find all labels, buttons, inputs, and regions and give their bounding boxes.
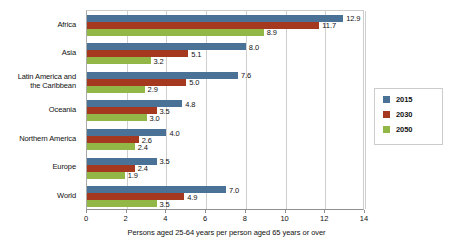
bar-2050	[87, 57, 151, 64]
bar-track: 3.0	[87, 114, 363, 121]
bar-value-label: 2.9	[145, 85, 158, 94]
bar-track: 4.8	[87, 100, 363, 107]
legend-label: 2030	[396, 110, 412, 119]
x-tick-label: 0	[84, 214, 88, 223]
bar-2050	[87, 200, 157, 207]
bar-group: 4.83.53.0	[87, 97, 363, 126]
bar-track: 2.4	[87, 143, 363, 150]
bar-2030	[87, 136, 139, 143]
bar-2050	[87, 143, 135, 150]
x-axis-ticks: 02468101214	[86, 210, 364, 226]
bar-2030	[87, 79, 186, 86]
bar-2015	[87, 186, 226, 193]
legend-swatch-icon	[383, 111, 390, 118]
bar-2030	[87, 22, 319, 29]
category-label: Northern America	[19, 134, 76, 144]
category-axis-labels: AfricaAsiaLatin America and the Caribbea…	[0, 10, 82, 210]
bar-value-label: 8.9	[264, 28, 277, 37]
gridline	[365, 11, 366, 209]
bar-value-label: 1.9	[125, 171, 138, 180]
bar-track: 8.0	[87, 43, 363, 50]
bar-track: 7.0	[87, 186, 363, 193]
bar-group: 4.02.62.4	[87, 125, 363, 154]
x-tick-label: 10	[280, 214, 288, 223]
bar-2050	[87, 172, 125, 179]
bar-track: 8.9	[87, 29, 363, 36]
bar-value-label: 3.0	[147, 113, 160, 122]
bar-2050	[87, 114, 147, 121]
bar-track: 11.7	[87, 22, 363, 29]
x-tick-label: 4	[163, 214, 167, 223]
bar-track: 5.0	[87, 79, 363, 86]
x-tick-mark	[285, 210, 286, 213]
x-tick-label: 12	[320, 214, 328, 223]
bar-value-label: 3.2	[151, 56, 164, 65]
x-tick-label: 8	[243, 214, 247, 223]
category-label: Africa	[57, 20, 76, 30]
bar-value-label: 3.5	[157, 199, 170, 208]
category-label: World	[57, 191, 76, 201]
legend-label: 2015	[396, 95, 412, 104]
bar-2015	[87, 43, 246, 50]
x-tick-mark	[126, 210, 127, 213]
bar-track: 2.6	[87, 136, 363, 143]
x-tick-mark	[324, 210, 325, 213]
bar-2050	[87, 86, 145, 93]
legend-item[interactable]: 2015	[383, 95, 442, 104]
category-label: Asia	[62, 48, 76, 58]
x-tick-label: 14	[360, 214, 368, 223]
bar-groups: 12.911.78.98.05.13.27.65.02.94.83.53.04.…	[87, 11, 363, 209]
bar-2030	[87, 193, 184, 200]
x-tick-label: 2	[124, 214, 128, 223]
bar-group: 12.911.78.9	[87, 11, 363, 40]
bar-track: 2.9	[87, 86, 363, 93]
legend-swatch-icon	[383, 96, 390, 103]
chart-legend: 201520302050	[374, 88, 443, 145]
bar-track: 3.5	[87, 200, 363, 207]
bar-2015	[87, 129, 166, 136]
x-axis-title: Persons aged 25-64 years per person aged…	[0, 228, 453, 237]
bar-2030	[87, 50, 188, 57]
category-label: Latin America and the Caribbean	[18, 72, 76, 91]
bar-track: 1.9	[87, 172, 363, 179]
bar-group: 3.52.41.9	[87, 154, 363, 183]
bar-track: 4.9	[87, 193, 363, 200]
bar-track: 3.2	[87, 57, 363, 64]
x-tick-mark	[205, 210, 206, 213]
bar-track: 7.6	[87, 72, 363, 79]
legend-item[interactable]: 2030	[383, 110, 442, 119]
bar-track: 4.0	[87, 129, 363, 136]
bar-group: 7.04.93.5	[87, 182, 363, 211]
bar-2050	[87, 29, 264, 36]
x-tick-mark	[86, 210, 87, 213]
plot-area: 12.911.78.98.05.13.27.65.02.94.83.53.04.…	[86, 10, 364, 210]
bar-track: 5.1	[87, 50, 363, 57]
category-label: Oceania	[49, 105, 76, 115]
category-label: Europe	[52, 162, 76, 172]
bar-value-label: 2.4	[135, 142, 148, 151]
bar-track: 3.5	[87, 107, 363, 114]
x-tick-label: 6	[203, 214, 207, 223]
x-tick-mark	[165, 210, 166, 213]
x-tick-mark	[364, 210, 365, 213]
legend-swatch-icon	[383, 126, 390, 133]
bar-group: 8.05.13.2	[87, 40, 363, 69]
x-tick-mark	[245, 210, 246, 213]
legend-item[interactable]: 2050	[383, 125, 442, 134]
bar-2015	[87, 72, 238, 79]
bar-chart: AfricaAsiaLatin America and the Caribbea…	[0, 0, 453, 248]
bar-2015	[87, 15, 343, 22]
bar-track: 3.5	[87, 158, 363, 165]
legend-label: 2050	[396, 125, 412, 134]
bar-group: 7.65.02.9	[87, 68, 363, 97]
